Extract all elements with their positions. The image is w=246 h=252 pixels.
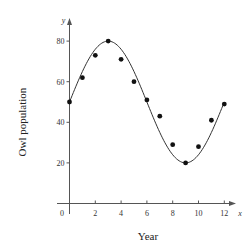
data-point (106, 39, 111, 44)
data-point (157, 114, 162, 119)
data-point (67, 100, 72, 105)
x-tick-label: 10 (195, 209, 203, 218)
data-point (80, 75, 85, 80)
data-point (196, 144, 201, 149)
data-point (119, 57, 124, 62)
x-tick-label: 12 (220, 209, 228, 218)
data-point (209, 118, 214, 123)
y-tick-label: 80 (57, 37, 65, 46)
x-axis-title: Year (138, 230, 159, 242)
y-tick-label: 20 (57, 159, 65, 168)
y-tick-label: 60 (57, 78, 65, 87)
x-variable-label: x (237, 209, 242, 218)
x-tick-label: 4 (119, 209, 123, 218)
data-point (222, 102, 227, 107)
tick-labels: 246810120x20406080y (57, 16, 243, 218)
y-axis-title: Owl population (16, 87, 28, 156)
data-points (67, 39, 227, 166)
y-tick-label: 40 (57, 118, 65, 127)
y-variable-label: y (61, 16, 66, 25)
y-axis-arrow-icon (67, 18, 72, 25)
x-axis-arrow-icon (229, 201, 236, 206)
x-tick-label: 8 (171, 209, 175, 218)
x-tick-label: 6 (145, 209, 149, 218)
data-point (93, 53, 98, 58)
data-point (132, 79, 137, 84)
axes (57, 18, 236, 214)
origin-label: 0 (60, 209, 64, 218)
x-tick-label: 2 (93, 209, 97, 218)
owl-population-chart: 246810120x20406080y Owl population Year (0, 0, 246, 252)
data-point (183, 161, 188, 166)
data-point (145, 98, 150, 103)
data-point (170, 142, 175, 147)
